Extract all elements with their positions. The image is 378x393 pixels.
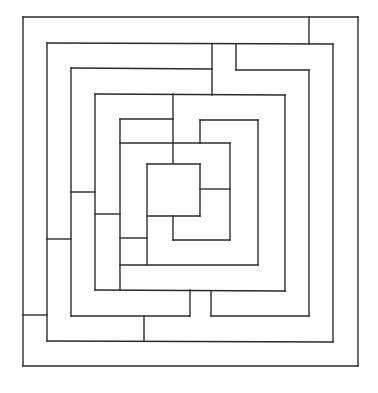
maze-canvas bbox=[0, 0, 378, 393]
maze-background bbox=[0, 0, 378, 393]
maze-diagram bbox=[0, 0, 378, 393]
maze-wall bbox=[47, 43, 333, 44]
maze-wall bbox=[71, 68, 212, 69]
maze-wall bbox=[95, 94, 285, 95]
